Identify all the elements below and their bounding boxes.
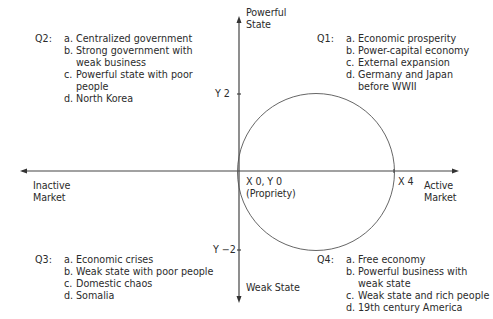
item-text: 19th century America xyxy=(358,302,462,313)
active-market-label: Active Market xyxy=(424,180,456,204)
inactive-market-line2: Market xyxy=(33,192,70,204)
list-item: d.Somalia xyxy=(64,290,225,302)
origin-coords: X 0, Y 0 xyxy=(246,176,296,188)
item-marker: b. xyxy=(64,45,73,57)
x-axis-right-arrow-icon xyxy=(452,169,459,174)
item-marker: b. xyxy=(346,266,355,278)
item-marker: c. xyxy=(64,69,72,81)
item-text: Germany and Japan before WWII xyxy=(358,69,453,92)
tick-label-x4: X 4 xyxy=(398,176,413,188)
item-marker: a. xyxy=(346,33,355,45)
inactive-market-line1: Inactive xyxy=(33,180,70,192)
item-text: Powerful business with weak state xyxy=(358,266,467,289)
active-market-line2: Market xyxy=(424,192,456,204)
weak-state-label: Weak State xyxy=(246,282,300,294)
item-text: Domestic chaos xyxy=(76,278,152,289)
list-item: a.Economic crises xyxy=(64,254,225,266)
origin-label: X 0, Y 0 (Propriety) xyxy=(246,176,296,200)
list-item: d.North Korea xyxy=(64,93,205,105)
list-item: b.Powerful business with weak state xyxy=(346,266,468,290)
quadrant-q2: Q2: a.Centralized government b.Strong go… xyxy=(35,33,205,105)
tick-label-y2: Y 2 xyxy=(215,88,230,100)
item-text: Power-capital economy xyxy=(358,45,469,56)
quadrant-q3: Q3: a.Economic crises b.Weak state with … xyxy=(35,254,225,302)
x-axis-left-arrow-icon xyxy=(20,169,27,174)
item-marker: b. xyxy=(64,266,73,278)
item-marker: a. xyxy=(64,254,73,266)
item-text: Somalia xyxy=(76,290,114,301)
item-marker: c. xyxy=(64,278,72,290)
item-marker: d. xyxy=(64,93,73,105)
item-text: Economic prosperity xyxy=(358,33,456,44)
list-item: c.Domestic chaos xyxy=(64,278,225,290)
quadrant-q1: Q1: a.Economic prosperity b.Power-capita… xyxy=(317,33,493,93)
item-marker: b. xyxy=(346,45,355,57)
propriety-circle xyxy=(238,94,395,251)
list-item: d.19th century America xyxy=(346,302,493,314)
list-item: a.Economic prosperity xyxy=(346,33,493,45)
item-text: Free economy xyxy=(358,254,425,265)
item-text: External expansion xyxy=(358,57,450,68)
quadrant-id: Q4: xyxy=(317,254,334,266)
quadrant-q4: Q4: a.Free economy b.Powerful business w… xyxy=(317,254,493,314)
list-item: b.Weak state with poor people xyxy=(64,266,225,278)
active-market-line1: Active xyxy=(424,180,456,192)
powerful-state-line1: Powerful xyxy=(246,7,286,19)
item-text: Weak state and rich people xyxy=(358,290,489,301)
quadrant-id: Q2: xyxy=(35,33,52,45)
item-marker: d. xyxy=(346,302,355,314)
item-marker: a. xyxy=(346,254,355,266)
list-item: a.Centralized government xyxy=(64,33,205,45)
item-text: Strong government with weak business xyxy=(76,45,193,68)
list-item: b.Power-capital economy xyxy=(346,45,493,57)
item-text: Economic crises xyxy=(76,254,153,265)
y-axis-top-arrow-icon xyxy=(237,16,242,23)
item-marker: a. xyxy=(64,33,73,45)
quadrant-id: Q3: xyxy=(35,254,52,266)
powerful-state-label: Powerful State xyxy=(246,7,286,31)
quadrant-id: Q1: xyxy=(317,33,334,45)
item-text: Weak state with poor people xyxy=(76,266,213,277)
item-marker: c. xyxy=(346,290,354,302)
list-item: c.Powerful state with poor people xyxy=(64,69,194,93)
list-item: a.Free economy xyxy=(346,254,493,266)
item-marker: d. xyxy=(64,290,73,302)
item-marker: c. xyxy=(346,57,354,69)
powerful-state-line2: State xyxy=(246,19,286,31)
list-item: b.Strong government with weak business xyxy=(64,45,194,69)
list-item: d.Germany and Japan before WWII xyxy=(346,69,458,93)
y-axis-bottom-arrow-icon xyxy=(237,296,242,303)
item-marker: d. xyxy=(346,69,355,81)
list-item: c.Weak state and rich people xyxy=(346,290,493,302)
item-text: Powerful state with poor people xyxy=(76,69,193,92)
inactive-market-label: Inactive Market xyxy=(33,180,70,204)
list-item: c.External expansion xyxy=(346,57,493,69)
item-text: North Korea xyxy=(76,93,133,104)
item-text: Centralized government xyxy=(76,33,192,44)
origin-propriety: (Propriety) xyxy=(246,188,296,200)
